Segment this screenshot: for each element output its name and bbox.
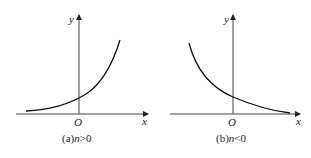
caption-a-prefix: (a) [62, 132, 74, 144]
caption-b-rel: <0 [234, 132, 246, 144]
caption-b-prefix: (b) [216, 132, 229, 144]
caption-b: (b)n<0 [216, 133, 246, 144]
x-axis-label-a: x [142, 116, 147, 127]
x-axis-label-b: x [296, 116, 301, 127]
curve-decreasing [189, 43, 290, 113]
origin-label-a: O [74, 117, 82, 128]
y-axis-label-a: y [69, 14, 74, 25]
diagram-canvas [0, 0, 311, 158]
origin-label-b: O [228, 117, 236, 128]
figure-a [16, 15, 148, 114]
curve-increasing [26, 40, 120, 111]
figure-b [170, 15, 300, 114]
caption-a-rel: >0 [80, 132, 92, 144]
caption-a: (a)n>0 [62, 133, 91, 144]
y-axis-label-b: y [224, 14, 229, 25]
